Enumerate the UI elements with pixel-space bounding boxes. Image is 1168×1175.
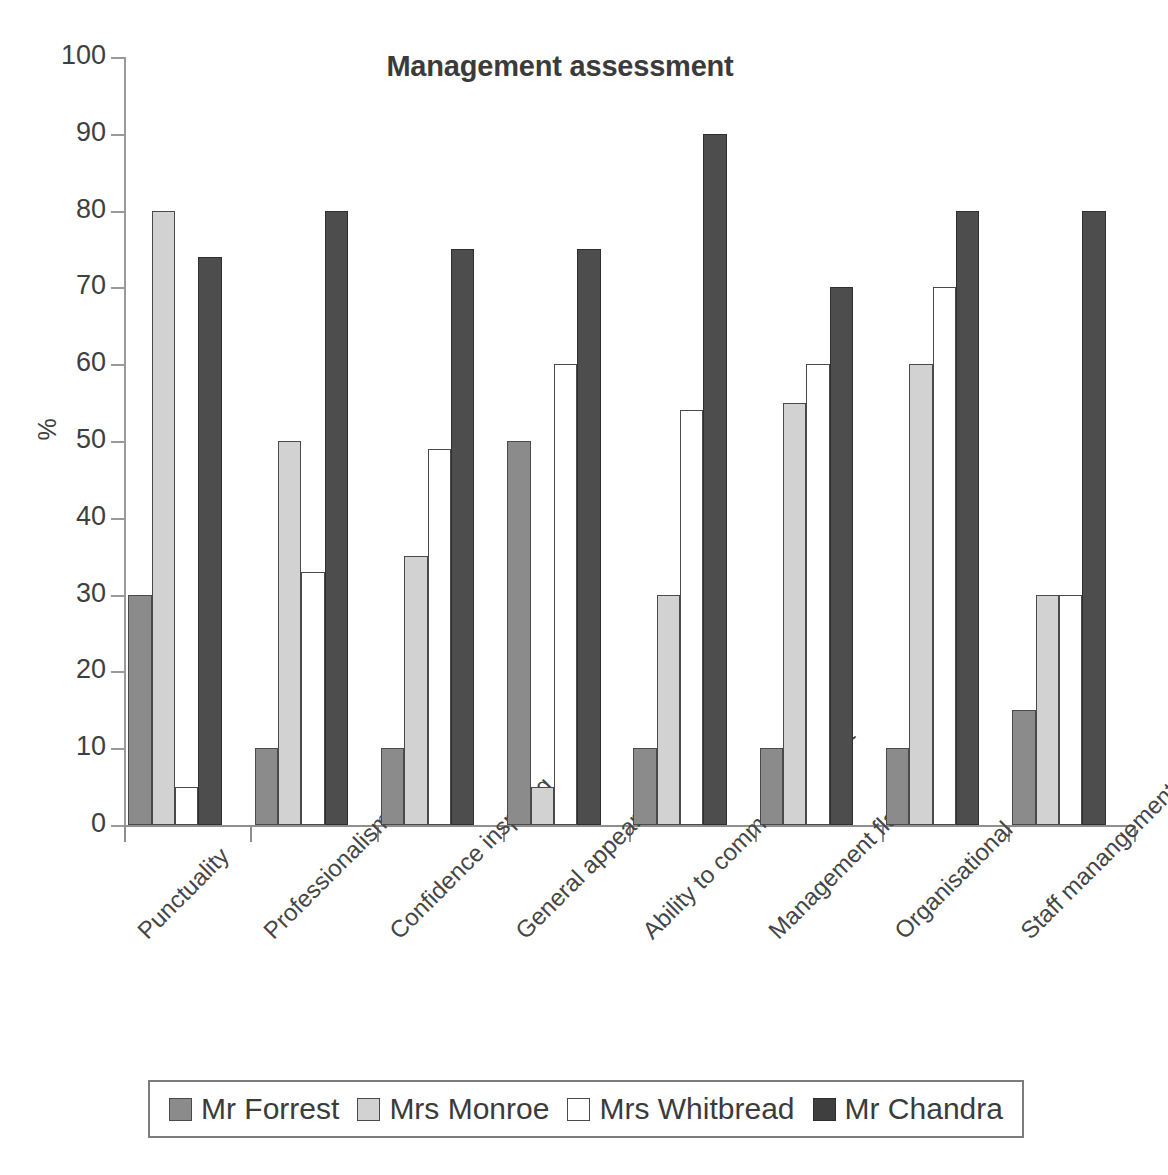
legend-label: Mr Forrest xyxy=(201,1092,339,1126)
bar-group xyxy=(755,57,881,825)
bar[interactable] xyxy=(933,287,956,825)
bar[interactable] xyxy=(1012,710,1035,825)
y-axis-tick-mark xyxy=(111,518,124,520)
bar[interactable] xyxy=(531,787,554,825)
bar[interactable] xyxy=(325,211,348,825)
bar[interactable] xyxy=(633,748,656,825)
y-axis-tick-mark xyxy=(111,825,124,827)
bar[interactable] xyxy=(451,249,474,825)
bar[interactable] xyxy=(301,572,324,825)
y-axis-tick-label: 0 xyxy=(36,810,106,837)
y-axis-tick-mark xyxy=(111,57,124,59)
y-axis-tick-label: 90 xyxy=(36,119,106,146)
bar[interactable] xyxy=(128,595,151,825)
bar-group xyxy=(377,57,503,825)
bar[interactable] xyxy=(507,441,530,825)
bar-chart: Management assessment % 0102030405060708… xyxy=(0,0,1168,1175)
legend-item[interactable]: Mrs Monroe xyxy=(357,1092,549,1126)
bar[interactable] xyxy=(657,595,680,825)
bar[interactable] xyxy=(783,403,806,825)
bar-group xyxy=(250,57,376,825)
bar[interactable] xyxy=(703,134,726,825)
y-axis-tick-label: 80 xyxy=(36,196,106,223)
chart-legend: Mr ForrestMrs MonroeMrs WhitbreadMr Chan… xyxy=(148,1080,1024,1138)
y-axis-tick-mark xyxy=(111,441,124,443)
x-axis-tick-mark xyxy=(250,826,252,842)
y-axis-tick-label: 50 xyxy=(36,426,106,453)
y-axis-tick-mark xyxy=(111,134,124,136)
legend-label: Mrs Monroe xyxy=(389,1092,549,1126)
bar[interactable] xyxy=(404,556,427,825)
bar-group xyxy=(1008,57,1134,825)
bar[interactable] xyxy=(255,748,278,825)
bar[interactable] xyxy=(175,787,198,825)
y-axis-tick-mark xyxy=(111,671,124,673)
bar-group xyxy=(882,57,1008,825)
legend-item[interactable]: Mr Chandra xyxy=(813,1092,1003,1126)
legend-label: Mrs Whitbread xyxy=(599,1092,794,1126)
bar[interactable] xyxy=(909,364,932,825)
bar-group xyxy=(124,57,250,825)
y-axis-tick-label: 40 xyxy=(36,503,106,530)
plot-area xyxy=(124,57,1134,825)
x-axis-tick-mark xyxy=(124,826,126,842)
bar-group xyxy=(629,57,755,825)
y-axis-tick-mark xyxy=(111,364,124,366)
bar[interactable] xyxy=(1059,595,1082,825)
y-axis-tick-label: 100 xyxy=(36,42,106,69)
y-axis-tick-label: 20 xyxy=(36,656,106,683)
legend-swatch-icon xyxy=(169,1098,192,1121)
legend-swatch-icon xyxy=(357,1098,380,1121)
bar[interactable] xyxy=(554,364,577,825)
y-axis-tick-label: 30 xyxy=(36,580,106,607)
bar[interactable] xyxy=(198,257,221,825)
legend-label: Mr Chandra xyxy=(845,1092,1003,1126)
bar[interactable] xyxy=(830,287,853,825)
y-axis-tick-mark xyxy=(111,211,124,213)
legend-swatch-icon xyxy=(813,1098,836,1121)
legend-swatch-icon xyxy=(567,1098,590,1121)
legend-item[interactable]: Mr Forrest xyxy=(169,1092,339,1126)
bar[interactable] xyxy=(680,410,703,825)
bar[interactable] xyxy=(886,748,909,825)
bar[interactable] xyxy=(956,211,979,825)
x-axis-category-label: Punctuality xyxy=(132,842,235,945)
legend-item[interactable]: Mrs Whitbread xyxy=(567,1092,794,1126)
y-axis-tick-mark xyxy=(111,748,124,750)
bar[interactable] xyxy=(760,748,783,825)
bar[interactable] xyxy=(152,211,175,825)
y-axis-tick-label: 70 xyxy=(36,272,106,299)
bar[interactable] xyxy=(381,748,404,825)
y-axis-tick-mark xyxy=(111,595,124,597)
bar[interactable] xyxy=(1082,211,1105,825)
bar[interactable] xyxy=(577,249,600,825)
bar[interactable] xyxy=(428,449,451,825)
y-axis-tick-label: 60 xyxy=(36,349,106,376)
bar[interactable] xyxy=(278,441,301,825)
bar[interactable] xyxy=(1036,595,1059,825)
y-axis-tick-mark xyxy=(111,287,124,289)
y-axis-tick-label: 10 xyxy=(36,733,106,760)
bar[interactable] xyxy=(806,364,829,825)
bar-group xyxy=(503,57,629,825)
